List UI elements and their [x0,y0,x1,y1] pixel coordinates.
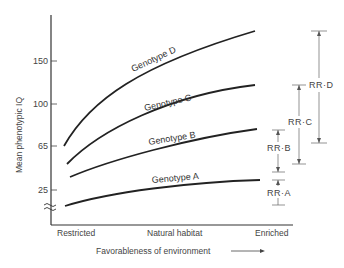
x-axis-label: Favorableness of environment [96,246,211,256]
y-tick-label-150: 150 [33,56,48,66]
label-rr-c: RR·C [288,117,313,127]
y-tick-label-65: 65 [38,141,48,151]
x-label-enriched: Enriched [255,228,289,238]
y-tick-label-25: 25 [38,185,48,195]
label-genotype-c: Genotype C [143,92,193,113]
y-tick-label-100: 100 [33,99,48,109]
curve-genotype-c [67,85,255,164]
label-rr-b: RR·B [267,143,291,153]
arrow-right-icon [231,249,265,253]
label-rr-d: RR·D [309,80,334,90]
label-rr-a: RR·A [267,188,291,198]
reaction-range-chart: 150 100 65 25 Mean phenotypic IQ Restric… [0,0,344,268]
y-axis-label: Mean phenotypic IQ [14,97,24,173]
x-label-natural-habitat: Natural habitat [147,228,203,238]
label-genotype-a: Genotype A [151,171,199,185]
axis-break-icon [44,204,56,211]
x-label-restricted: Restricted [57,228,96,238]
